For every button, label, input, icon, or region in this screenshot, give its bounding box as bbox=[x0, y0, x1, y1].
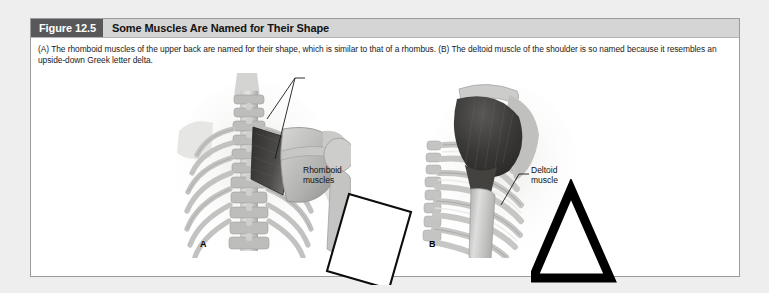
figure-caption: (A) The rhomboid muscles of the upper ba… bbox=[31, 38, 739, 67]
figure-box: Figure 12.5 Some Muscles Are Named for T… bbox=[30, 18, 740, 277]
figure-illustration-area: Rhomboid muscles A Rhombus bbox=[31, 67, 739, 265]
rhomboid-callout-label: Rhomboid muscles bbox=[303, 165, 342, 186]
delta-shape bbox=[531, 179, 641, 289]
rhombus-shape bbox=[319, 185, 419, 285]
rhomboid-callout-line1: Rhomboid bbox=[303, 165, 342, 176]
figure-header: Figure 12.5 Some Muscles Are Named for T… bbox=[31, 19, 739, 38]
panel-b-letter: B bbox=[429, 239, 436, 249]
panel-a-letter: A bbox=[200, 239, 207, 249]
figure-title: Some Muscles Are Named for Their Shape bbox=[103, 19, 329, 37]
deltoid-callout-line1: Deltoid bbox=[531, 165, 558, 176]
figure-number-tag: Figure 12.5 bbox=[31, 19, 103, 37]
